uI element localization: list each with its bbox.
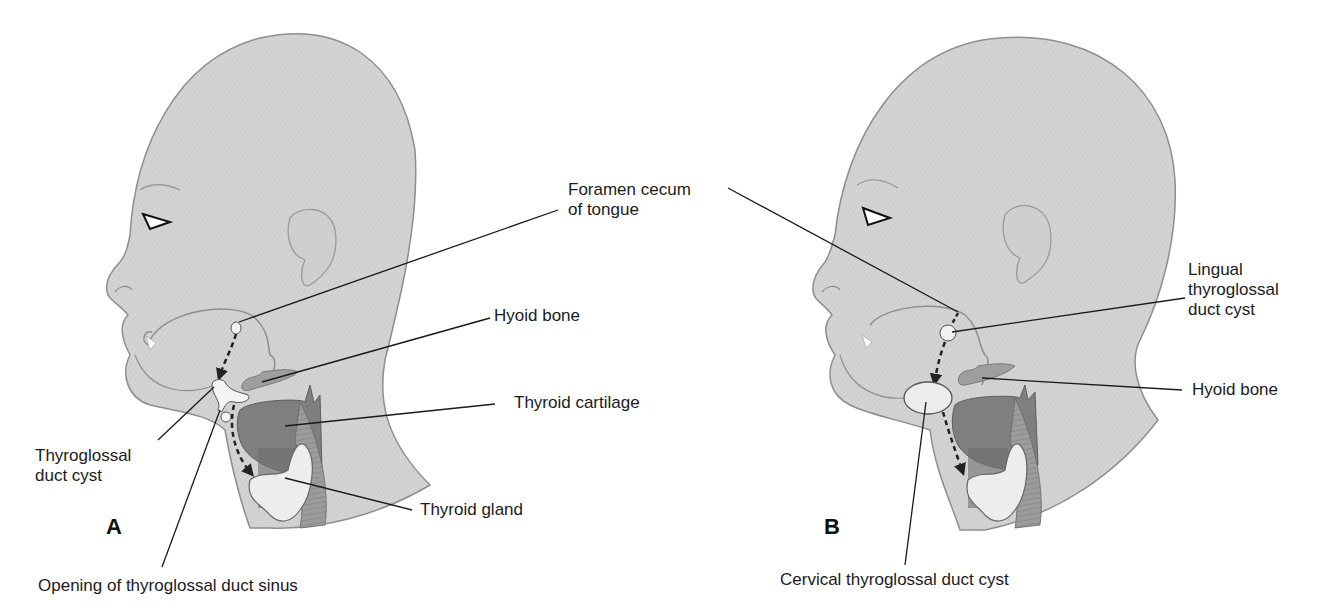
label-hyoid-bone-a: Hyoid bone bbox=[494, 306, 580, 326]
label-line: Foramen cecum bbox=[568, 180, 691, 200]
panel-letter-b: B bbox=[824, 514, 840, 540]
label-line: Thyroglossal bbox=[35, 446, 131, 466]
panel-letter-a: A bbox=[106, 514, 122, 540]
foramen-cecum-a bbox=[231, 322, 241, 334]
panel-a-head bbox=[107, 34, 430, 528]
panel-b-head bbox=[813, 37, 1175, 530]
cervical-cyst-b bbox=[904, 382, 952, 414]
label-line: duct cyst bbox=[35, 466, 131, 486]
label-sinus-opening: Opening of thyroglossal duct sinus bbox=[38, 576, 298, 596]
label-cervical-cyst: Cervical thyroglossal duct cyst bbox=[780, 570, 1009, 590]
label-hyoid-bone-b: Hyoid bone bbox=[1192, 380, 1278, 400]
label-thyroid-gland: Thyroid gland bbox=[420, 500, 523, 520]
label-foramen-cecum: Foramen cecum of tongue bbox=[568, 180, 691, 220]
label-line: duct cyst bbox=[1188, 300, 1279, 320]
label-thyroglossal-duct-cyst: Thyroglossal duct cyst bbox=[35, 446, 131, 486]
label-line: Lingual bbox=[1188, 260, 1279, 280]
label-lingual-cyst: Lingual thyroglossal duct cyst bbox=[1188, 260, 1279, 320]
lingual-cyst-b bbox=[940, 325, 956, 341]
label-line: thyroglossal bbox=[1188, 280, 1279, 300]
anatomical-illustration bbox=[0, 0, 1332, 614]
label-thyroid-cartilage: Thyroid cartilage bbox=[514, 393, 640, 413]
label-line: of tongue bbox=[568, 200, 691, 220]
